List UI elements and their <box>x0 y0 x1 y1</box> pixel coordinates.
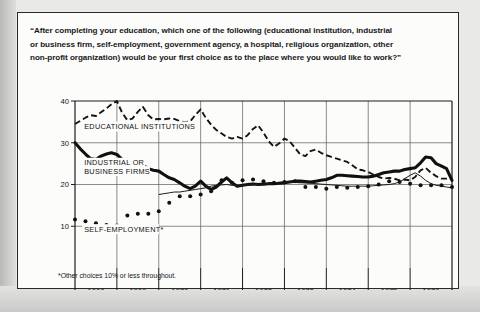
chart-plot-area: 10203040%1968196919701971197219731974197… <box>18 73 460 290</box>
datapoint-self-employment <box>178 194 182 198</box>
datapoint-self-employment <box>408 182 412 186</box>
xtick-label-1974: 1974 <box>339 287 356 290</box>
datapoint-self-employment <box>345 186 349 190</box>
xtick-label-1972: 1972 <box>255 287 272 290</box>
datapoint-self-employment <box>335 185 339 189</box>
datapoint-self-employment <box>440 183 444 187</box>
datapoint-self-employment <box>429 183 433 187</box>
chart-footnote: *Other choices 10% or less throughout. <box>58 272 176 279</box>
ytick-label-10: 10 <box>61 222 69 231</box>
xtick-label-1973: 1973 <box>297 287 314 290</box>
xtick-label-1975: 1975 <box>381 287 398 290</box>
datapoint-self-employment <box>188 194 192 198</box>
ytick-label-30: 30 <box>61 139 69 148</box>
series-label-educational-institutions: EDUCATIONAL INSTITUTIONS <box>84 122 195 131</box>
ytick-label-20: 20 <box>61 180 69 189</box>
ytick-label-40: 40 <box>61 97 69 106</box>
datapoint-self-employment <box>262 179 266 183</box>
datapoint-self-employment <box>146 212 150 216</box>
datapoint-self-employment <box>125 213 129 217</box>
datapoint-self-employment <box>167 201 171 205</box>
datapoint-self-employment <box>157 209 161 213</box>
series-label-self-employment: SELF-EMPLOYMENT* <box>84 225 163 234</box>
series-label-industrial-line2: BUSINESS FIRMS <box>84 167 150 176</box>
xtick-label-1969: 1969 <box>129 287 146 290</box>
xtick-label-1970: 1970 <box>171 287 188 290</box>
datapoint-self-employment <box>398 180 402 184</box>
datapoint-self-employment <box>314 185 318 189</box>
datapoint-self-employment <box>450 185 454 189</box>
title-line-3: non-profit organization) would be your f… <box>30 51 446 65</box>
datapoint-self-employment <box>230 181 234 185</box>
datapoint-self-employment <box>303 185 307 189</box>
line-chart: 10203040%1968196919701971197219731974197… <box>18 73 460 290</box>
datapoint-self-employment <box>366 184 370 188</box>
datapoint-self-employment <box>220 178 224 182</box>
title-line-2: or business firm, self-employment, gover… <box>30 38 446 52</box>
datapoint-self-employment <box>136 212 140 216</box>
page-left-shadow <box>0 0 16 312</box>
datapoint-self-employment <box>387 179 391 183</box>
datapoint-self-employment <box>377 183 381 187</box>
datapoint-self-employment <box>73 218 77 222</box>
datapoint-self-employment <box>241 178 245 182</box>
figure-title: “After completing your education, which … <box>30 24 446 65</box>
figure-card: “After completing your education, which … <box>17 12 459 289</box>
datapoint-self-employment <box>293 179 297 183</box>
datapoint-self-employment <box>251 177 255 181</box>
xtick-label-1971: 1971 <box>213 287 230 290</box>
datapoint-self-employment <box>282 180 286 184</box>
datapoint-self-employment <box>272 181 276 185</box>
datapoint-self-employment <box>83 219 87 223</box>
xtick-label-1976: 1976 <box>423 287 440 290</box>
datapoint-self-employment <box>209 189 213 193</box>
title-line-1: “After completing your education, which … <box>30 24 446 38</box>
datapoint-self-employment <box>324 187 328 191</box>
datapoint-self-employment <box>199 193 203 197</box>
datapoint-self-employment <box>419 183 423 187</box>
datapoint-self-employment <box>356 185 360 189</box>
xtick-label-1968: 1968 <box>87 287 104 290</box>
